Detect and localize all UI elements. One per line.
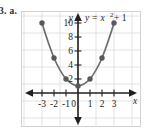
y-tick-label: 8 [68,32,73,42]
x-tick-label: 3 [112,99,117,109]
y-tick-label: 2 [68,74,73,84]
data-point [75,83,80,88]
y-axis-name-label: y [68,13,74,23]
coordinate-plane-svg: 10 8 6 4 2 -3 -2 -1 0 1 2 3 y x y = x [21,11,141,127]
data-point [87,76,92,81]
data-point [99,55,104,60]
x-tick-label-origin: 0 [71,99,76,109]
x-tick-label: 2 [100,99,105,109]
x-tick-label: 1 [88,99,93,109]
y-tick-label: 6 [68,46,73,56]
parabola-figure: 3. a. [0,0,145,129]
equation-label-main: y = x [84,13,105,23]
equation-label-exponent: 2 [110,11,113,18]
y-tick-label: 4 [68,60,73,70]
data-point [39,20,44,25]
graph-plot-area: 10 8 6 4 2 -3 -2 -1 0 1 2 3 y x y = x [21,11,141,127]
equation-label-tail: + 1 [114,13,127,23]
x-tick-label: -2 [50,99,58,109]
x-tick-label: -3 [38,99,46,109]
x-axis-name-label: x [132,96,138,106]
plot-background [21,11,141,127]
problem-number-label: 3. a. [0,6,17,16]
x-tick-label: -1 [62,99,70,109]
data-point [51,55,56,60]
